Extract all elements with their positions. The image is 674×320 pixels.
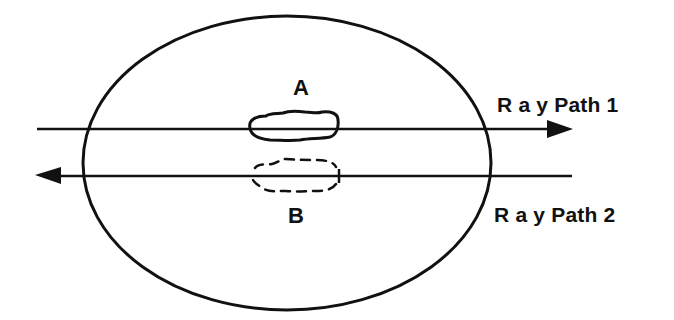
ray-path-diagram: A B R a y Path 1 R a y Path 2 [0, 0, 674, 320]
ray-path-1-arrowhead-icon [547, 120, 573, 138]
anomaly-a-label: A [293, 77, 309, 99]
diagram-drawing [0, 0, 674, 320]
anomaly-b-label: B [288, 205, 304, 227]
anomaly-a-solid-blob [250, 111, 338, 140]
ray-path-1-label: R a y Path 1 [497, 94, 618, 115]
ray-path-2-arrowhead-icon [35, 167, 61, 184]
ray-path-2-label: R a y Path 2 [494, 204, 615, 225]
medium-boundary-ellipse [83, 16, 491, 310]
